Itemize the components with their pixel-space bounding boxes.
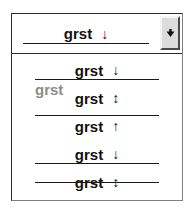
underline-rule	[35, 79, 159, 80]
underline-rule	[35, 163, 159, 164]
decorated-sample-2: grst grst ↕	[35, 87, 159, 109]
underline-rule	[23, 43, 149, 44]
list-item[interactable]: grst ↓	[12, 56, 182, 84]
overline-rule	[35, 115, 159, 116]
list-item[interactable]: grst ↕	[12, 168, 182, 196]
list-item[interactable]: grst ↓	[12, 140, 182, 168]
down-arrow-icon: ↓	[101, 27, 108, 41]
decorated-sample-selected: grst ↓	[23, 23, 149, 45]
up-down-arrow-icon: ↕	[112, 91, 119, 105]
dropdown-toggle-button[interactable]	[160, 16, 180, 50]
combobox-selected-value: grst ↓	[23, 23, 149, 45]
sample-text-ghost: grst	[35, 81, 63, 98]
dropdown-list[interactable]: grst ↓ grst grst ↕ grst ↑ grst ↓	[12, 54, 182, 196]
chevron-down-icon	[165, 28, 176, 39]
line-through-rule	[35, 182, 159, 183]
decorated-sample-1: grst ↓	[35, 59, 159, 81]
combobox-field[interactable]: grst ↓	[12, 14, 182, 54]
decorated-sample-3: grst ↑	[35, 115, 159, 137]
combobox-widget[interactable]: grst ↓ grst ↓ grst grst	[11, 13, 183, 201]
down-arrow-icon: ↓	[112, 147, 119, 161]
up-arrow-icon: ↑	[112, 119, 119, 133]
sample-text: grst	[75, 118, 103, 135]
sample-text: grst	[75, 90, 103, 107]
decorated-sample-4: grst ↓	[35, 143, 159, 165]
sample-text: grst	[75, 62, 103, 79]
decorated-sample-5: grst ↕	[35, 171, 159, 193]
sample-text: grst	[64, 25, 92, 42]
list-item[interactable]: grst grst ↕	[12, 84, 182, 112]
sample-text: grst	[75, 146, 103, 163]
list-item[interactable]: grst ↑	[12, 112, 182, 140]
down-arrow-icon: ↓	[112, 63, 119, 77]
